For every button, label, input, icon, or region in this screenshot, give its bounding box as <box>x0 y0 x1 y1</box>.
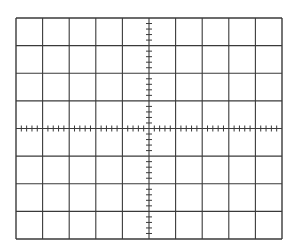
oscilloscope-graticule <box>0 0 296 251</box>
